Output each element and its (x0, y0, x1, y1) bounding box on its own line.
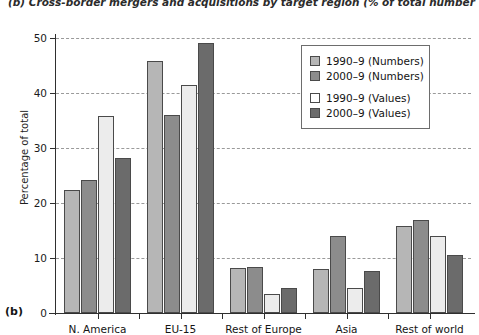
bar[interactable] (64, 190, 80, 313)
figure-caption: (b) Cross-border mergers and acquisition… (8, 0, 478, 11)
legend-item: 1990–9 (Numbers) (310, 53, 421, 68)
x-axis-separator (305, 313, 306, 319)
y-tick-label: 30 (34, 142, 47, 154)
legend-label: 1990–9 (Numbers) (326, 55, 424, 67)
y-tick-label: 20 (34, 197, 47, 209)
bars (222, 38, 305, 313)
x-tick-label: Rest of world (395, 323, 464, 335)
bar-group: EU-15 (139, 38, 222, 313)
bar[interactable] (81, 180, 97, 313)
legend-item: 2000–9 (Numbers) (310, 68, 421, 83)
legend-item: 1990–9 (Values) (310, 90, 421, 105)
bar[interactable] (396, 226, 412, 313)
bar-group: Rest of Europe (222, 38, 305, 313)
panel-letter: (b) (5, 305, 23, 318)
bar[interactable] (164, 115, 180, 313)
legend-item: 2000–9 (Values) (310, 105, 421, 120)
bar[interactable] (115, 158, 131, 313)
bars (139, 38, 222, 313)
bar[interactable] (364, 271, 380, 313)
y-axis-title: Percentage of total (19, 78, 30, 238)
legend-divider (310, 83, 421, 90)
x-tick-mark (181, 313, 182, 319)
legend-swatch-icon (310, 108, 320, 118)
bar[interactable] (181, 85, 197, 313)
bar[interactable] (147, 61, 163, 313)
bar[interactable] (347, 288, 363, 313)
bar[interactable] (264, 294, 280, 313)
y-tick-label: 0 (40, 307, 47, 319)
bar[interactable] (413, 220, 429, 314)
chart-legend: 1990–9 (Numbers) 2000–9 (Numbers) 1990–9… (301, 45, 430, 129)
legend-swatch-icon (310, 93, 320, 103)
bar[interactable] (430, 236, 446, 313)
x-axis-line (49, 313, 475, 314)
bar-group: N. America (56, 38, 139, 313)
x-tick-mark (347, 313, 348, 319)
x-tick-mark (264, 313, 265, 319)
y-tick-label: 10 (34, 252, 47, 264)
bar[interactable] (230, 268, 246, 313)
y-tick-label: 50 (34, 32, 47, 44)
legend-label: 1990–9 (Values) (326, 92, 411, 104)
legend-label: 2000–9 (Numbers) (326, 70, 424, 82)
x-tick-label: N. America (69, 323, 127, 335)
bar[interactable] (330, 236, 346, 313)
x-tick-label: EU-15 (165, 323, 196, 335)
x-tick-label: Rest of Europe (225, 323, 302, 335)
x-axis-separator (222, 313, 223, 319)
legend-swatch-icon (310, 56, 320, 66)
bar[interactable] (198, 43, 214, 313)
bar[interactable] (313, 269, 329, 313)
bar[interactable] (247, 267, 263, 313)
x-tick-label: Asia (335, 323, 357, 335)
x-axis-separator (139, 313, 140, 319)
bar[interactable] (447, 255, 463, 313)
legend-swatch-icon (310, 71, 320, 81)
y-tick-mark (50, 313, 56, 314)
x-tick-mark (430, 313, 431, 319)
bar[interactable] (281, 288, 297, 313)
legend-label: 2000–9 (Values) (326, 107, 411, 119)
bar[interactable] (98, 116, 114, 313)
x-axis-separator (388, 313, 389, 319)
x-tick-mark (98, 313, 99, 319)
bars (56, 38, 139, 313)
y-tick-label: 40 (34, 87, 47, 99)
